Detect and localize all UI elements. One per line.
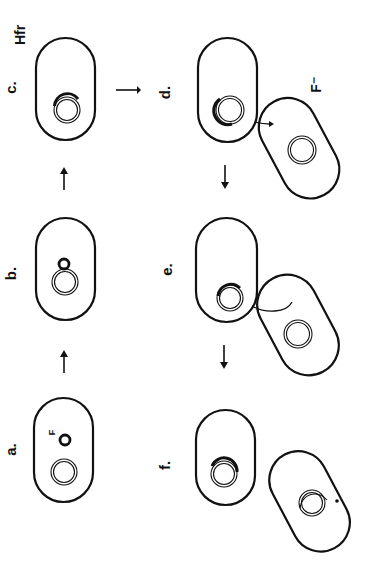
panel-a-f-plus-cell [34,398,93,502]
panel-label-a: a. [3,443,18,456]
panel-label-e: e. [159,263,174,276]
panel-e-transfer [196,218,349,386]
panel-b-integration [36,218,95,320]
arrow-b-to-c [60,167,68,190]
panel-d-conjugation [198,38,350,209]
plasmid-label-f: F [48,430,57,436]
arrow-c-to-d [116,86,141,94]
panel-label-f: f. [157,461,172,470]
panel-f-separated [196,410,360,562]
cell-label-f-minus: F⁻ [309,77,323,93]
arrow-d-to-e [221,165,229,189]
arrow-a-to-b [60,350,68,373]
panel-label-b: b. [3,267,18,280]
panel-c-hfr-cell [36,38,95,140]
arrow-e-to-f [220,345,228,369]
panel-label-d: d. [157,86,172,99]
cell-label-hfr: Hfr [13,25,27,45]
panel-label-c: c. [3,81,18,94]
